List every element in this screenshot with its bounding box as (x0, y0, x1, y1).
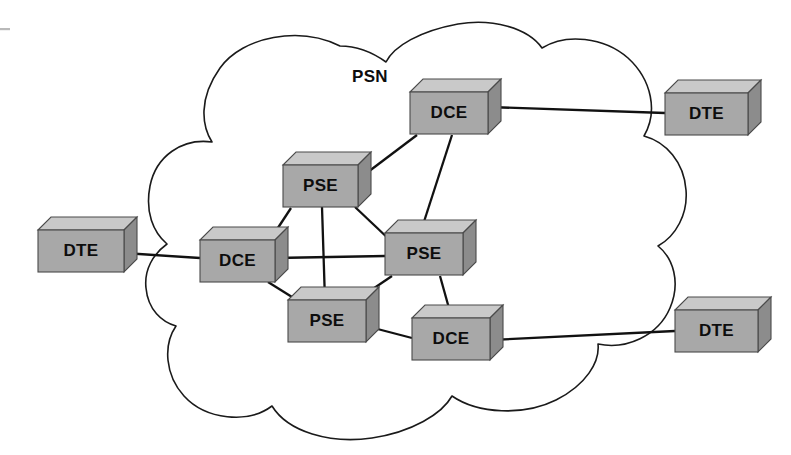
network-diagram-canvas: PSN DTEDCEPSEPSEPSEDCEDCEDTEDTE (0, 0, 791, 455)
psn-topology-svg: PSN DTEDCEPSEPSEPSEDCEDCEDTEDTE (0, 0, 791, 455)
node-label-dte-top-right: DTE (689, 104, 724, 123)
node-top-face (385, 220, 476, 233)
node-top-face (675, 297, 771, 310)
node-label-dte-bottom-right: DTE (699, 321, 734, 340)
node-label-pse-top: PSE (303, 176, 338, 195)
node-top-face (38, 217, 137, 230)
node-pse-right[interactable]: PSE (385, 220, 476, 275)
node-label-dce-bottom: DCE (433, 329, 470, 348)
node-dte-left[interactable]: DTE (38, 217, 137, 272)
node-label-dce-top: DCE (431, 103, 468, 122)
node-top-face (283, 152, 371, 165)
node-pse-bottom[interactable]: PSE (288, 287, 379, 342)
node-label-pse-bottom: PSE (310, 311, 345, 330)
node-top-face (410, 79, 501, 92)
node-label-dce-left: DCE (219, 251, 256, 270)
psn-cloud-label: PSN (352, 67, 388, 86)
node-dte-bottom-right[interactable]: DTE (675, 297, 771, 352)
node-dte-top-right[interactable]: DTE (665, 80, 761, 135)
node-dce-bottom[interactable]: DCE (412, 305, 503, 360)
node-top-face (412, 305, 503, 318)
node-label-dte-left: DTE (64, 241, 99, 260)
node-top-face (200, 227, 288, 240)
node-top-face (665, 80, 761, 93)
node-dce-top[interactable]: DCE (410, 79, 501, 134)
node-pse-top[interactable]: PSE (283, 152, 371, 207)
node-label-pse-right: PSE (407, 244, 442, 263)
node-dce-left[interactable]: DCE (200, 227, 288, 282)
scan-edge-artifact (0, 28, 10, 30)
node-top-face (288, 287, 379, 300)
